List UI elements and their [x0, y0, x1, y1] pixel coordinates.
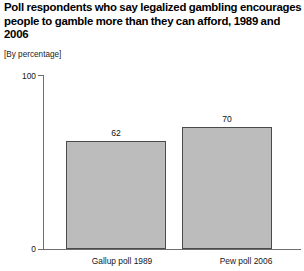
y-axis-tick-labels: 100 0	[0, 60, 36, 271]
x-axis-category-label-pew-poll-2006: Pew poll 2006	[166, 256, 304, 266]
chart-subtitle: [By percentage]	[4, 42, 302, 60]
bar-value-label-pew-poll-2006: 70	[182, 115, 272, 124]
bar-series: 62 70	[44, 75, 301, 249]
bar-gallup-poll-1989[interactable]	[66, 141, 166, 249]
bar-slot-pew-poll-2006: 70	[182, 75, 272, 249]
x-axis-line	[43, 249, 301, 250]
chart-header: Poll respondents who say legalized gambl…	[4, 1, 302, 60]
bar-slot-gallup-poll-1989: 62	[66, 75, 166, 249]
page-title: Poll respondents who say legalized gambl…	[4, 1, 302, 42]
bar-value-label-gallup-poll-1989: 62	[66, 129, 166, 138]
y-axis-tick-label-0: 0	[31, 245, 36, 253]
bar-pew-poll-2006[interactable]	[182, 127, 272, 249]
y-axis-tick-label-100: 100	[22, 72, 36, 80]
chart-page: Poll respondents who say legalized gambl…	[0, 0, 304, 271]
chart-plot-area: 100 0 62 70 Gallup poll 1989 Pew poll 20…	[0, 60, 304, 271]
